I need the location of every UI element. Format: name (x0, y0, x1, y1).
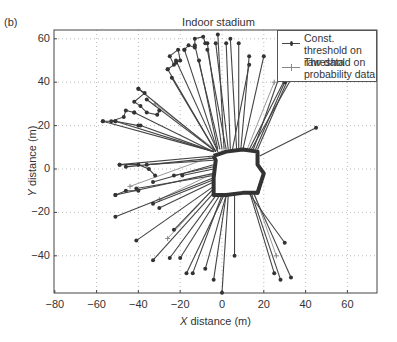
dot-marker-icon (178, 59, 182, 63)
dot-marker-icon (201, 35, 205, 39)
y-tick-label: −20 (20, 205, 50, 217)
dot-marker-icon (166, 67, 170, 71)
dot-marker-icon (170, 76, 174, 80)
dot-marker-icon (122, 115, 126, 119)
dot-marker-icon (176, 48, 180, 52)
dot-marker-icon (113, 193, 117, 197)
dot-marker-icon (136, 87, 140, 91)
dot-marker-icon (124, 165, 128, 169)
dot-marker-icon (113, 119, 117, 123)
dot-marker-icon (118, 163, 122, 167)
dot-marker-icon (145, 163, 149, 167)
dot-marker-icon (237, 41, 241, 45)
dot-marker-icon (184, 271, 188, 275)
legend-label-prob: Threshold on probability data (304, 56, 378, 80)
raw-ray (180, 195, 220, 258)
x-tick-label: 60 (333, 298, 361, 310)
x-tick-label: 40 (292, 298, 320, 310)
dot-marker-icon (134, 239, 138, 243)
dot-marker-icon (224, 41, 228, 45)
x-tick-label: 20 (250, 298, 278, 310)
x-tick-label: −80 (41, 298, 69, 310)
dot-marker-icon (151, 180, 155, 184)
y-tick-label: −40 (20, 249, 50, 261)
dot-marker-icon (272, 271, 276, 275)
dot-marker-icon (193, 45, 197, 49)
raw-ray (260, 128, 316, 156)
dot-marker-icon (124, 189, 128, 193)
dot-marker-icon (182, 48, 186, 52)
dot-marker-icon (233, 254, 237, 258)
legend-dot-marker-icon (290, 41, 293, 46)
x-tick-label: 0 (208, 298, 236, 310)
dot-marker-icon (262, 54, 266, 58)
dot-marker-icon (124, 108, 128, 112)
x-tick-label: −40 (124, 298, 152, 310)
dot-marker-icon (247, 63, 251, 67)
dot-marker-icon (283, 241, 287, 245)
y-axis-label-var: Y (26, 189, 38, 196)
dot-marker-icon (191, 271, 195, 275)
dot-marker-icon (136, 189, 140, 193)
dot-marker-icon (136, 163, 140, 167)
y-tick-label: 0 (20, 162, 50, 174)
raw-ray (184, 50, 217, 152)
legend: Const. threshold on raw data Threshold o… (277, 30, 377, 82)
dot-marker-icon (145, 98, 149, 102)
y-tick-label: 60 (20, 32, 50, 44)
dot-marker-icon (138, 104, 142, 108)
dot-marker-icon (157, 108, 161, 112)
dot-marker-icon (193, 37, 197, 41)
dot-marker-icon (132, 111, 136, 115)
dot-marker-icon (178, 256, 182, 260)
dot-marker-icon (101, 119, 105, 123)
dot-marker-icon (203, 267, 207, 271)
raw-ray (222, 195, 228, 293)
legend-plus-marker-icon (291, 64, 292, 71)
dot-marker-icon (168, 54, 172, 58)
x-tick-label: −20 (166, 298, 194, 310)
dot-marker-icon (151, 258, 155, 262)
dot-marker-icon (145, 111, 149, 115)
dot-marker-icon (247, 54, 251, 58)
dot-marker-icon (203, 41, 207, 45)
dot-marker-icon (172, 228, 176, 232)
dot-marker-icon (220, 291, 224, 295)
dot-marker-icon (214, 41, 218, 45)
x-axis-label: X distance (m) (54, 315, 377, 327)
plus-marker-icon (272, 80, 277, 85)
dot-marker-icon (113, 215, 117, 219)
raw-ray (232, 65, 249, 150)
dot-marker-icon (279, 278, 283, 282)
dot-marker-icon (157, 206, 161, 210)
dot-marker-icon (172, 174, 176, 178)
dot-marker-icon (174, 61, 178, 65)
y-tick-label: 40 (20, 75, 50, 87)
raw-ray (153, 191, 216, 260)
raw-ray (243, 56, 264, 149)
plus-marker-icon (274, 253, 279, 258)
raw-ray (199, 61, 218, 150)
dot-marker-icon (153, 174, 157, 178)
dot-marker-icon (216, 32, 220, 36)
dot-marker-icon (197, 59, 201, 63)
dot-marker-icon (180, 174, 184, 178)
dot-marker-icon (132, 100, 136, 104)
dot-marker-icon (228, 37, 232, 41)
plus-marker-icon (128, 184, 133, 189)
y-tick-label: 20 (20, 119, 50, 131)
raw-ray (186, 195, 224, 273)
dot-marker-icon (136, 124, 140, 128)
dot-marker-icon (289, 276, 293, 280)
dot-marker-icon (147, 167, 151, 171)
chart-title: Indoor stadium (0, 16, 397, 28)
dot-marker-icon (155, 113, 159, 117)
raw-ray (214, 195, 227, 280)
room-outline (214, 149, 264, 195)
y-axis-label-text: distance (m) (26, 126, 38, 190)
dot-marker-icon (212, 278, 216, 282)
dot-marker-icon (168, 256, 172, 260)
x-axis-label-text: distance (m) (187, 315, 251, 327)
raw-ray (153, 180, 214, 204)
dot-marker-icon (187, 43, 191, 47)
